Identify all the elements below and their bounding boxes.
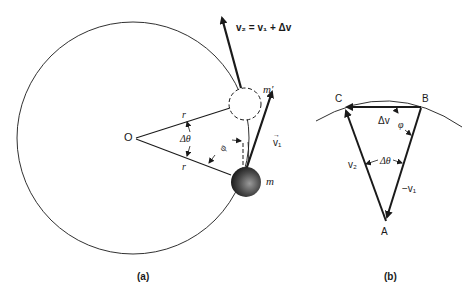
delta-theta-arrow-b-left <box>366 160 378 164</box>
v2-label-b: v₂ <box>348 160 357 170</box>
phi-arrow-left <box>209 155 215 163</box>
caption-a: (a) <box>137 272 149 282</box>
mass-prime-label: m′ <box>263 84 273 95</box>
v1-label: v₁ <box>273 138 281 148</box>
delta-theta-label-b: Δθ <box>380 156 391 166</box>
diagram-canvas <box>0 0 472 291</box>
phi-label-b: φ <box>398 120 404 130</box>
phi-arrow-right <box>232 140 241 141</box>
delta-theta-arrow-b-right <box>393 160 402 163</box>
v2-equation-label: v₂ = v₁ + Δv <box>236 23 291 33</box>
radius-label-upper: r <box>182 110 186 120</box>
mass-ball <box>231 167 261 197</box>
delta-v-label: Δv <box>378 116 390 126</box>
phi-arc-b2 <box>405 130 411 135</box>
neg-v1-label: −v₁ <box>402 184 416 194</box>
vertex-b-label: B <box>422 94 429 104</box>
phi-arc-b <box>395 109 398 113</box>
delta-theta-label: Δθ <box>180 134 191 144</box>
neg-v1-triangle-vector <box>387 108 421 217</box>
center-label-o: O <box>124 132 133 143</box>
delta-theta-arc-upper <box>187 122 190 132</box>
caption-b: (b) <box>384 272 397 282</box>
radius-label-lower: r <box>182 162 186 172</box>
mass-label: m <box>266 176 274 187</box>
delta-theta-arc-lower <box>187 146 190 156</box>
vertex-a-label: A <box>381 227 388 237</box>
mass-prime-ghost <box>229 88 261 120</box>
orbit-circle <box>17 22 249 254</box>
vertex-c-label: C <box>335 94 342 104</box>
